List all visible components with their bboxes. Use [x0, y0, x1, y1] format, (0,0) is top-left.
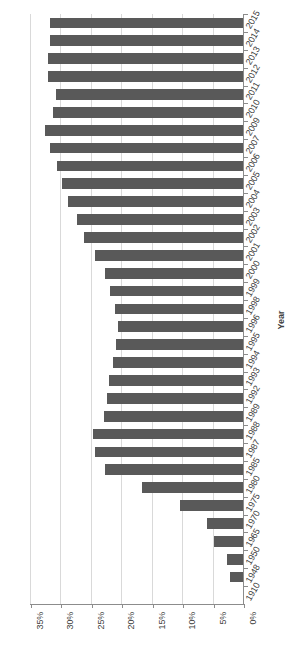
value-axis-tick	[244, 604, 245, 608]
bar-row	[30, 515, 243, 533]
bar	[50, 18, 243, 29]
value-axis-tick-label: 10%	[187, 612, 197, 629]
bar-row	[30, 121, 243, 139]
bar-row	[30, 68, 243, 86]
bar	[113, 357, 243, 368]
bar	[45, 125, 243, 136]
bar	[93, 429, 243, 440]
value-axis-tick-label: 0%	[248, 612, 258, 625]
bar	[116, 339, 243, 350]
plot-area	[30, 14, 243, 604]
bar-row	[30, 586, 243, 604]
value-axis-tick	[92, 604, 93, 608]
bar	[53, 107, 243, 118]
bar	[68, 196, 243, 207]
bar	[48, 71, 243, 82]
value-axis-tick	[214, 604, 215, 608]
bar-row	[30, 246, 243, 264]
bar	[50, 143, 243, 154]
bar	[118, 321, 243, 332]
bar-row	[30, 354, 243, 372]
bar	[180, 500, 243, 511]
bar	[56, 89, 243, 100]
bar-row	[30, 300, 243, 318]
value-axis-tick	[183, 604, 184, 608]
bar-row	[30, 389, 243, 407]
bar-row	[30, 497, 243, 515]
bar-row	[30, 461, 243, 479]
value-axis-tick	[61, 604, 62, 608]
category-axis-label-slot: 1910	[248, 586, 274, 604]
bar	[105, 464, 243, 475]
value-axis-tick-label: 35%	[35, 612, 45, 629]
bar-row	[30, 32, 243, 50]
bar-row	[30, 336, 243, 354]
bar	[207, 518, 243, 529]
bar	[77, 214, 243, 225]
bar-row	[30, 139, 243, 157]
bar-row	[30, 479, 243, 497]
bar-rows	[30, 14, 243, 604]
bar-row	[30, 229, 243, 247]
bar-row	[30, 425, 243, 443]
category-axis-title: Year	[276, 310, 286, 329]
value-axis-tick-label: 25%	[96, 612, 106, 629]
bar-row	[30, 372, 243, 390]
bar-row	[30, 532, 243, 550]
bar	[105, 268, 243, 279]
bar	[62, 178, 243, 189]
bar-row	[30, 550, 243, 568]
bar	[95, 447, 243, 458]
bar	[214, 536, 243, 547]
bar	[142, 482, 243, 493]
value-axis-tick	[122, 604, 123, 608]
bar	[110, 286, 243, 297]
value-axis-tick	[31, 604, 32, 608]
bar-row	[30, 175, 243, 193]
bar	[227, 554, 243, 565]
bar-row	[30, 407, 243, 425]
bar-row	[30, 318, 243, 336]
bar	[48, 53, 243, 64]
bar	[230, 572, 243, 583]
bar	[84, 232, 243, 243]
bar-row	[30, 86, 243, 104]
bar-row	[30, 193, 243, 211]
bar	[107, 393, 243, 404]
bar-row	[30, 282, 243, 300]
bar-row	[30, 157, 243, 175]
category-axis-labels: 2015201420132012201120102009200720062005…	[248, 14, 274, 604]
bar-row	[30, 211, 243, 229]
bar-row	[30, 50, 243, 68]
bar	[50, 35, 243, 46]
value-axis-tick	[153, 604, 154, 608]
bar-row	[30, 14, 243, 32]
bar-row	[30, 264, 243, 282]
value-axis-tick-label: 20%	[126, 612, 136, 629]
bar	[115, 304, 243, 315]
bar-row	[30, 568, 243, 586]
bar-row	[30, 103, 243, 121]
value-axis-tick-label: 30%	[65, 612, 75, 629]
bar	[104, 411, 243, 422]
bar	[95, 250, 243, 261]
bar	[57, 161, 243, 172]
value-axis-tick-label: 15%	[157, 612, 167, 629]
value-axis-tick-label: 5%	[218, 612, 228, 625]
bar-chart: 35%30%25%20%15%10%5%0% 20152014201320122…	[0, 0, 296, 666]
bar-row	[30, 443, 243, 461]
bar	[109, 375, 243, 386]
